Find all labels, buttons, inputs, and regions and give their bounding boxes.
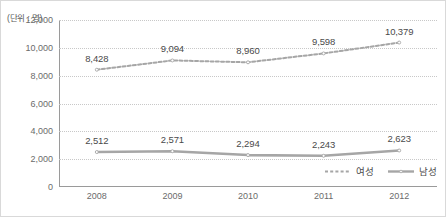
value-label: 2,623 xyxy=(388,133,411,144)
data-point xyxy=(95,151,98,154)
dashed-line-icon xyxy=(325,168,351,175)
value-label: 8,428 xyxy=(85,53,108,64)
data-point xyxy=(247,154,250,157)
data-point xyxy=(398,41,401,44)
y-tick-label: 4,000 xyxy=(30,126,53,136)
data-point xyxy=(171,150,174,153)
data-point xyxy=(247,61,250,64)
x-tick-label: 2010 xyxy=(238,191,258,201)
y-tick-label: 2,000 xyxy=(30,154,53,164)
solid-line-icon xyxy=(388,168,414,175)
y-tick-label: 10,000 xyxy=(25,43,53,53)
value-label: 2,512 xyxy=(85,135,108,146)
data-point xyxy=(322,154,325,157)
x-tick-label: 2012 xyxy=(389,191,409,201)
x-tick-label: 2008 xyxy=(87,191,107,201)
value-label: 2,571 xyxy=(161,134,184,145)
data-point xyxy=(95,68,98,71)
legend-label-male: 남성 xyxy=(419,164,437,178)
value-label: 2,294 xyxy=(236,138,259,149)
x-tick-label: 2011 xyxy=(314,191,333,201)
value-label: 9,598 xyxy=(312,36,335,47)
value-label: 9,094 xyxy=(161,43,184,54)
legend-item-male[interactable]: 남성 xyxy=(388,164,437,178)
value-label: 10,379 xyxy=(385,26,413,37)
y-tick-label: 8,000 xyxy=(30,71,53,81)
value-label: 8,960 xyxy=(236,45,259,56)
line-chart: (단위 : 명) 02,0004,0006,0008,00010,00012,0… xyxy=(0,0,446,217)
legend-item-female[interactable]: 여성 xyxy=(325,164,374,178)
data-point xyxy=(171,59,174,62)
y-tick-label: 0 xyxy=(48,182,53,192)
data-point xyxy=(398,149,401,152)
data-point xyxy=(322,52,325,55)
legend-label-female: 여성 xyxy=(356,164,374,178)
y-tick-label: 6,000 xyxy=(30,99,53,109)
y-tick-label: 12,000 xyxy=(25,15,53,25)
plot-area: 02,0004,0006,0008,00010,00012,000 200820… xyxy=(59,20,437,187)
legend: 여성 남성 xyxy=(325,164,437,178)
value-label: 2,243 xyxy=(312,139,335,150)
x-tick-label: 2009 xyxy=(162,191,182,201)
